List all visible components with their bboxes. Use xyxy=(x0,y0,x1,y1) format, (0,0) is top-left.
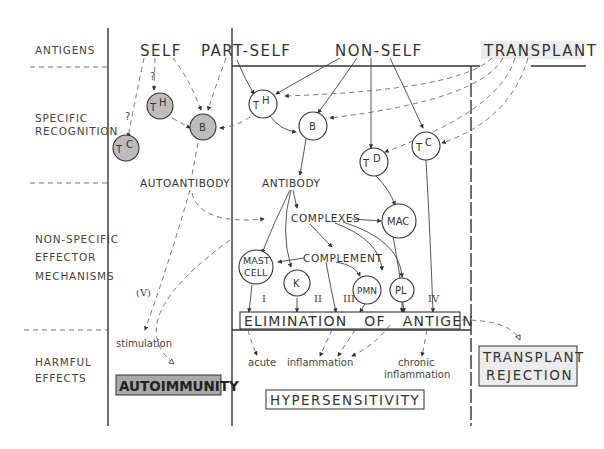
type-i: I xyxy=(262,293,266,304)
row-label-nonspecific-3: MECHANISMS xyxy=(35,270,114,282)
cell-tc: T C xyxy=(412,132,440,160)
svg-text:PMN: PMN xyxy=(357,286,377,296)
autoantibody-label: AUTOANTIBODY xyxy=(140,177,230,189)
cell-mast: MAST CELL xyxy=(239,250,273,284)
row-labels: ANTIGENS SPECIFIC RECOGNITION NON-SPECIF… xyxy=(35,44,119,384)
acute-label: acute xyxy=(248,357,276,368)
autoimmunity-label: AUTOIMMUNITY xyxy=(119,378,239,394)
chronic-label-1: chronic xyxy=(398,357,434,368)
cell-td: T D xyxy=(360,148,388,176)
cell-pmn: PMN xyxy=(353,276,381,304)
svg-text:T: T xyxy=(149,102,157,113)
complement-label: COMPLEMENT xyxy=(303,252,382,264)
row-dividers xyxy=(24,67,108,330)
elimination-label: ELIMINATION OF ANTIGEN xyxy=(244,313,474,329)
svg-text:B: B xyxy=(309,121,316,132)
svg-text:PL: PL xyxy=(395,285,407,296)
type-iv: IV xyxy=(428,293,440,304)
self-cell-tc: T C xyxy=(113,135,139,161)
antibody-label: ANTIBODY xyxy=(262,177,321,189)
svg-text:K: K xyxy=(293,278,300,289)
cell-b: B xyxy=(299,112,327,140)
cell-k: K xyxy=(284,270,310,296)
transplant-rejection-label-1: TRANSPLANT xyxy=(482,349,585,365)
svg-text:D: D xyxy=(373,153,381,164)
svg-text:MAST: MAST xyxy=(243,255,270,266)
question-mark-tc: ? xyxy=(125,111,130,122)
immune-response-diagram: ANTIGENS SPECIFIC RECOGNITION NON-SPECIF… xyxy=(0,0,604,449)
row-label-harmful-2: EFFECTS xyxy=(35,372,86,384)
svg-text:MAC: MAC xyxy=(387,216,409,227)
question-mark-th: ? xyxy=(150,71,155,82)
antigen-part-self: PART-SELF xyxy=(201,42,291,60)
svg-text:H: H xyxy=(262,95,270,106)
row-label-harmful-1: HARMFUL xyxy=(35,356,92,368)
cell-th: T H xyxy=(249,90,277,118)
inflammation-label: inflammation xyxy=(287,357,353,368)
svg-text:B: B xyxy=(199,122,206,133)
type-v: (V) xyxy=(136,287,151,298)
antigen-self: SELF xyxy=(140,42,182,60)
antigen-transplant: TRANSPLANT xyxy=(483,42,597,60)
row-label-specific-1: SPECIFIC xyxy=(35,112,88,124)
svg-text:T: T xyxy=(415,142,423,153)
svg-text:H: H xyxy=(159,97,167,108)
row-label-nonspecific-2: EFFECTOR xyxy=(35,251,96,263)
hypersensitivity-label: HYPERSENSITIVITY xyxy=(270,392,420,408)
complexes-label: COMPLEXES xyxy=(291,212,360,224)
svg-text:T: T xyxy=(115,144,123,155)
svg-text:C: C xyxy=(425,137,432,148)
type-ii: II xyxy=(314,293,322,304)
transplant-rejection-label-2: REJECTION xyxy=(486,367,573,383)
svg-text:T: T xyxy=(252,100,260,111)
cell-mac: MAC xyxy=(382,204,416,238)
stimulation-label: stimulation xyxy=(116,338,172,349)
self-cell-th: T H xyxy=(147,93,173,119)
svg-text:CELL: CELL xyxy=(244,267,268,278)
self-cell-b: B xyxy=(190,114,216,140)
chronic-label-2: inflammation xyxy=(384,369,450,380)
row-label-nonspecific-1: NON-SPECIFIC xyxy=(35,233,119,245)
transplant-arrows xyxy=(285,58,528,152)
type-iii: III xyxy=(343,293,355,304)
cell-pl: PL xyxy=(390,278,414,302)
antigen-non-self: NON-SELF xyxy=(335,42,423,60)
row-label-specific-2: RECOGNITION xyxy=(35,125,118,137)
svg-text:T: T xyxy=(362,158,370,169)
row-label-antigens: ANTIGENS xyxy=(35,44,95,56)
svg-text:C: C xyxy=(126,139,133,150)
